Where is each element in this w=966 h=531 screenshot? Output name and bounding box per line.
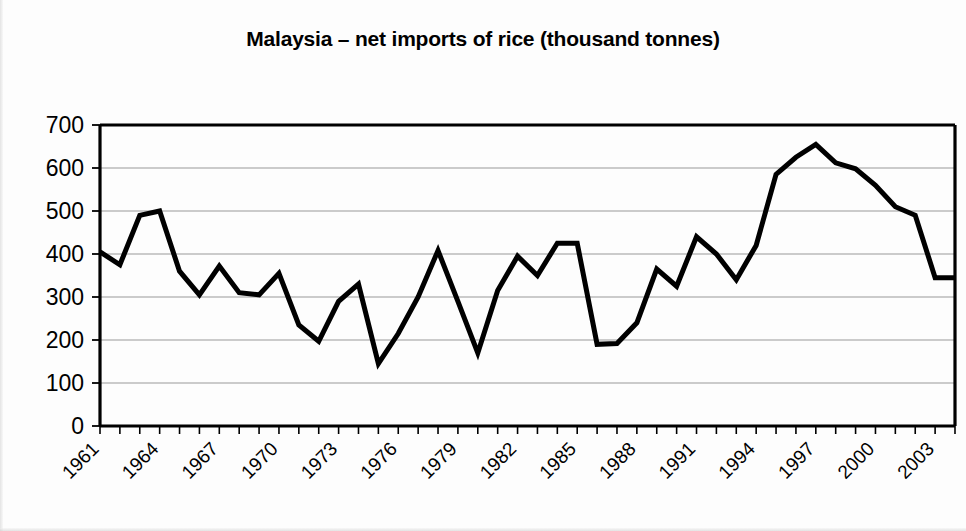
y-axis-label-100: 100	[46, 370, 84, 396]
y-axis-label-200: 200	[46, 327, 84, 353]
x-axis-label-1979: 1979	[416, 438, 461, 483]
x-axis-label-1973: 1973	[297, 438, 342, 483]
chart-svg: 0100200300400500600700 19611964196719701…	[0, 0, 966, 531]
y-axis-label-400: 400	[46, 241, 84, 267]
x-axis-label-1976: 1976	[356, 438, 401, 483]
x-axis-label-2000: 2000	[834, 438, 879, 483]
x-axis-label-2003: 2003	[893, 438, 938, 483]
x-axis-label-1970: 1970	[237, 438, 282, 483]
x-axis-label-1997: 1997	[774, 438, 819, 483]
x-axis-label-1964: 1964	[118, 438, 163, 483]
y-axis-label-600: 600	[46, 155, 84, 181]
x-axis-label-1991: 1991	[655, 438, 700, 483]
y-axis-label-500: 500	[46, 198, 84, 224]
y-axis-tick-labels: 0100200300400500600700	[46, 112, 84, 439]
x-axis-label-1988: 1988	[595, 438, 640, 483]
y-axis-label-700: 700	[46, 112, 84, 138]
x-axis-label-1961: 1961	[58, 438, 103, 483]
x-axis-label-1982: 1982	[476, 438, 521, 483]
y-axis-label-0: 0	[71, 413, 84, 439]
x-axis-label-1994: 1994	[714, 438, 759, 483]
x-axis-label-1967: 1967	[177, 438, 222, 483]
y-axis-label-300: 300	[46, 284, 84, 310]
line-chart: 0100200300400500600700 19611964196719701…	[0, 0, 966, 531]
figure-page: Malaysia – net imports of rice (thousand…	[0, 0, 966, 531]
x-axis-tick-labels: 1961196419671970197319761979198219851988…	[58, 438, 938, 483]
x-axis-label-1985: 1985	[535, 438, 580, 483]
